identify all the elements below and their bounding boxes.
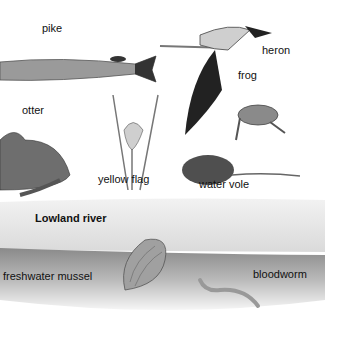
label-heron: heron bbox=[262, 44, 290, 56]
label-bloodworm: bloodworm bbox=[253, 268, 307, 280]
label-otter: otter bbox=[22, 104, 44, 116]
label-water-vole: water vole bbox=[199, 178, 249, 190]
label-pike: pike bbox=[42, 22, 62, 34]
otter-illustration bbox=[0, 133, 70, 196]
label-freshwater-mussel: freshwater mussel bbox=[3, 270, 92, 282]
diagram-title: Lowland river bbox=[35, 212, 107, 224]
label-yellow-flag: yellow flag bbox=[98, 173, 149, 185]
frog-illustration bbox=[236, 105, 285, 140]
label-frog: frog bbox=[238, 69, 257, 81]
pike-illustration bbox=[0, 56, 156, 82]
